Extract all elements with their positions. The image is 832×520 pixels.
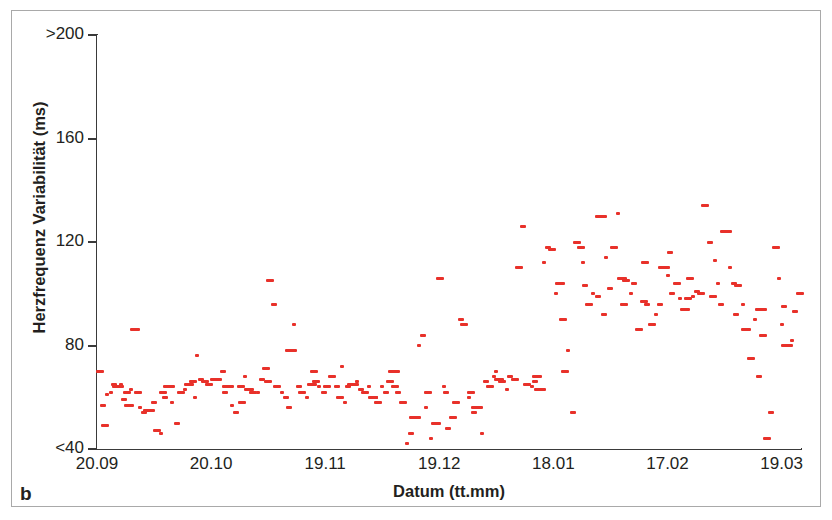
data-point	[570, 411, 576, 414]
data-point	[328, 375, 336, 378]
x-tick-label: 20.10	[156, 455, 266, 473]
data-point	[105, 393, 109, 396]
data-point	[498, 380, 506, 383]
data-point	[273, 385, 281, 388]
data-point	[756, 375, 762, 378]
data-point	[781, 305, 787, 308]
data-point	[471, 411, 477, 414]
data-point	[119, 383, 123, 386]
data-point	[336, 396, 344, 399]
data-point	[162, 396, 168, 399]
data-point	[604, 256, 608, 259]
data-point	[218, 378, 222, 381]
data-point	[296, 385, 302, 388]
data-point	[709, 295, 717, 298]
data-point	[542, 261, 546, 264]
data-point	[658, 266, 670, 269]
data-point	[355, 380, 359, 383]
data-point	[243, 375, 247, 378]
data-point	[361, 391, 369, 394]
data-point	[733, 313, 739, 316]
data-point	[130, 328, 140, 331]
data-point	[445, 427, 451, 430]
x-tick-label-text: 20.09	[76, 454, 119, 473]
y-tick-mark	[88, 241, 96, 243]
data-point	[100, 404, 106, 407]
data-point	[713, 259, 717, 262]
data-point	[101, 424, 109, 427]
data-point	[380, 385, 384, 388]
data-point	[424, 406, 428, 409]
x-tick-label-text: 19.03	[760, 454, 803, 473]
data-point	[763, 437, 771, 440]
data-point	[768, 411, 774, 414]
data-point	[532, 380, 538, 383]
data-point	[292, 323, 296, 326]
data-point	[312, 380, 320, 383]
data-point	[607, 287, 613, 290]
data-point	[340, 365, 344, 368]
data-point	[648, 323, 656, 326]
data-point	[124, 404, 134, 407]
y-tick-mark	[88, 138, 96, 140]
data-point	[177, 391, 185, 394]
data-point	[159, 432, 163, 435]
data-point	[616, 212, 620, 215]
data-point	[548, 248, 556, 251]
data-point	[559, 318, 567, 321]
data-point	[408, 432, 414, 435]
data-point	[581, 261, 585, 264]
data-point	[193, 396, 197, 399]
data-point	[734, 284, 742, 287]
data-point	[123, 391, 131, 394]
data-point	[347, 383, 359, 386]
data-point	[310, 370, 318, 373]
x-tick-label: 19.11	[270, 455, 380, 473]
data-point	[520, 225, 526, 228]
data-point	[367, 385, 371, 388]
data-point	[405, 442, 409, 445]
data-point	[220, 370, 226, 373]
data-point	[443, 391, 449, 394]
data-point	[747, 357, 755, 360]
figure-panel: >20016012080<40 20.0920.1019.1119.1218.0…	[0, 0, 832, 520]
data-point	[436, 277, 444, 280]
data-point	[345, 385, 351, 388]
data-point	[610, 246, 618, 249]
data-point	[684, 297, 692, 300]
data-point	[321, 391, 327, 394]
data-point	[515, 266, 523, 269]
x-tick-label: 19.12	[384, 455, 494, 473]
data-point	[669, 292, 675, 295]
data-point	[467, 391, 475, 394]
data-point	[741, 328, 751, 331]
data-point	[673, 282, 681, 285]
data-point	[170, 401, 174, 404]
data-point	[286, 406, 292, 409]
data-point	[534, 388, 546, 391]
data-point	[424, 391, 432, 394]
data-point	[635, 328, 643, 331]
x-tick-label-text: 19.12	[418, 454, 461, 473]
data-point	[759, 334, 767, 337]
data-point	[307, 383, 317, 386]
data-point	[417, 344, 421, 347]
data-point	[280, 391, 284, 394]
data-point	[486, 385, 494, 388]
x-tick-label-text: 19.11	[305, 454, 346, 473]
data-point	[573, 241, 581, 244]
data-point	[283, 396, 289, 399]
data-point	[460, 323, 468, 326]
data-point	[686, 277, 694, 280]
data-point	[134, 391, 142, 394]
data-point	[796, 292, 804, 295]
data-point	[184, 383, 194, 386]
data-point	[372, 396, 378, 399]
data-point	[334, 385, 340, 388]
data-point	[644, 303, 650, 306]
data-point	[585, 303, 593, 306]
data-point	[399, 401, 407, 404]
data-point	[561, 370, 569, 373]
data-point	[555, 282, 565, 285]
data-point	[629, 292, 633, 295]
